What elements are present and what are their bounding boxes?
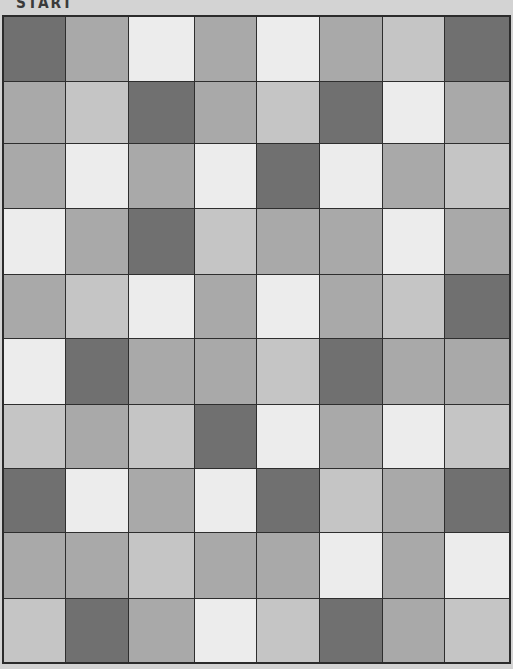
start-label: START (16, 0, 74, 12)
board-cell-r6-c5[interactable] (257, 339, 320, 405)
board-cell-r5-c4[interactable] (195, 275, 257, 339)
board-cell-r8-c1[interactable] (4, 469, 66, 534)
board-cell-r1-c6[interactable] (320, 17, 384, 82)
board-cell-r6-c3[interactable] (129, 339, 196, 405)
board-cell-r2-c6[interactable] (320, 82, 384, 144)
board-cell-r8-c2[interactable] (66, 469, 129, 534)
board-cell-r4-c6[interactable] (320, 209, 384, 275)
board-cell-r8-c4[interactable] (195, 469, 257, 534)
board-cell-r5-c1[interactable] (4, 275, 66, 339)
board-cell-r9-c3[interactable] (129, 533, 196, 599)
board-cell-r10-c4[interactable] (195, 599, 257, 662)
board-cell-r6-c2[interactable] (66, 339, 129, 405)
board-cell-r10-c6[interactable] (320, 599, 384, 662)
board-cell-r6-c7[interactable] (383, 339, 445, 405)
board-cell-r3-c2[interactable] (66, 144, 129, 210)
board-cell-r2-c7[interactable] (383, 82, 445, 144)
board-cell-r2-c3[interactable] (129, 82, 196, 144)
board-cell-r6-c6[interactable] (320, 339, 384, 405)
board-cell-r5-c5[interactable] (257, 275, 320, 339)
board-cell-r8-c7[interactable] (383, 469, 445, 534)
board-cell-r4-c1[interactable] (4, 209, 66, 275)
board-cell-r3-c4[interactable] (195, 144, 257, 210)
board-cell-r9-c7[interactable] (383, 533, 445, 599)
board-cell-r7-c3[interactable] (129, 405, 196, 469)
board-cell-r7-c5[interactable] (257, 405, 320, 469)
board-cell-r8-c5[interactable] (257, 469, 320, 534)
board-cell-r3-c8[interactable] (445, 144, 509, 210)
board-cell-r3-c7[interactable] (383, 144, 445, 210)
board-cell-r8-c6[interactable] (320, 469, 384, 534)
board-cell-r2-c5[interactable] (257, 82, 320, 144)
board-cell-r2-c2[interactable] (66, 82, 129, 144)
board-cell-r7-c8[interactable] (445, 405, 509, 469)
board-cell-r4-c7[interactable] (383, 209, 445, 275)
board-cell-r4-c5[interactable] (257, 209, 320, 275)
board-cell-r9-c8[interactable] (445, 533, 509, 599)
board-cell-r8-c8[interactable] (445, 469, 509, 534)
board-cell-r10-c2[interactable] (66, 599, 129, 662)
game-board-grid (2, 15, 511, 664)
board-cell-r9-c5[interactable] (257, 533, 320, 599)
board-cell-r4-c2[interactable] (66, 209, 129, 275)
board-cell-r1-c5[interactable] (257, 17, 320, 82)
board-cell-r5-c8[interactable] (445, 275, 509, 339)
board-cell-r6-c8[interactable] (445, 339, 509, 405)
board-cell-r4-c3[interactable] (129, 209, 196, 275)
board-cell-r3-c5[interactable] (257, 144, 320, 210)
board-cell-r9-c4[interactable] (195, 533, 257, 599)
board-cell-r5-c7[interactable] (383, 275, 445, 339)
board-cell-r1-c2[interactable] (66, 17, 129, 82)
board-cell-r2-c4[interactable] (195, 82, 257, 144)
board-cell-r5-c6[interactable] (320, 275, 384, 339)
board-cell-r7-c2[interactable] (66, 405, 129, 469)
board-cell-r6-c4[interactable] (195, 339, 257, 405)
board-cell-r10-c1[interactable] (4, 599, 66, 662)
board-cell-r1-c4[interactable] (195, 17, 257, 82)
board-cell-r1-c1[interactable] (4, 17, 66, 82)
board-cell-r9-c1[interactable] (4, 533, 66, 599)
board-cell-r7-c4[interactable] (195, 405, 257, 469)
board-cell-r9-c2[interactable] (66, 533, 129, 599)
board-cell-r8-c3[interactable] (129, 469, 196, 534)
board-cell-r3-c3[interactable] (129, 144, 196, 210)
board-cell-r7-c1[interactable] (4, 405, 66, 469)
board-cell-r7-c6[interactable] (320, 405, 384, 469)
board-cell-r1-c7[interactable] (383, 17, 445, 82)
board-cell-r5-c3[interactable] (129, 275, 196, 339)
board-cell-r2-c1[interactable] (4, 82, 66, 144)
board-cell-r10-c3[interactable] (129, 599, 196, 662)
board-cell-r1-c8[interactable] (445, 17, 509, 82)
board-cell-r10-c8[interactable] (445, 599, 509, 662)
board-cell-r10-c5[interactable] (257, 599, 320, 662)
board-cell-r1-c3[interactable] (129, 17, 196, 82)
board-cell-r4-c8[interactable] (445, 209, 509, 275)
board-cell-r3-c6[interactable] (320, 144, 384, 210)
board-cell-r4-c4[interactable] (195, 209, 257, 275)
board-cell-r6-c1[interactable] (4, 339, 66, 405)
board-cell-r10-c7[interactable] (383, 599, 445, 662)
board-cell-r9-c6[interactable] (320, 533, 384, 599)
board-cell-r5-c2[interactable] (66, 275, 129, 339)
board-cell-r2-c8[interactable] (445, 82, 509, 144)
board-cell-r7-c7[interactable] (383, 405, 445, 469)
board-cell-r3-c1[interactable] (4, 144, 66, 210)
